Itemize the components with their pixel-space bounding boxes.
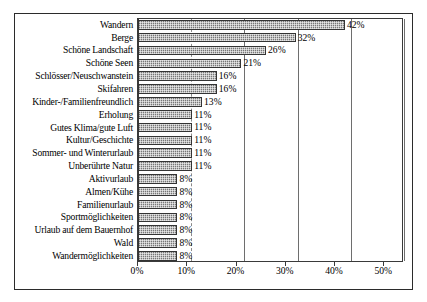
bar	[138, 174, 177, 184]
bar-value-label: 8%	[179, 174, 192, 184]
bar-value-label: 8%	[179, 200, 192, 210]
bar-row: Gutes Klima/gute Luft11%	[0, 121, 427, 135]
bar-value-label: 13%	[204, 97, 222, 107]
bar-row: Wandermöglichkeiten8%	[0, 249, 427, 263]
x-tick-mark	[137, 262, 138, 266]
bar-with-value: 26%	[138, 46, 286, 56]
bar-with-value: 11%	[138, 148, 211, 158]
bar-value-label: 16%	[219, 84, 237, 94]
bar-row: Wandern42%	[0, 18, 427, 32]
bar-with-value: 8%	[138, 174, 192, 184]
bar-rows: Wandern42%Berge32%Schöne Landschaft26%Sc…	[0, 18, 427, 262]
bar-row: Berge32%	[0, 31, 427, 45]
x-tick-mark	[285, 262, 286, 266]
bar	[138, 161, 192, 171]
category-label: Gutes Klima/gute Luft	[0, 123, 133, 133]
bar-with-value: 11%	[138, 123, 211, 133]
bar-with-value: 8%	[138, 200, 192, 210]
category-label: Aktivurlaub	[0, 174, 133, 184]
category-label: Kultur/Geschichte	[0, 135, 133, 145]
bar-row: Almen/Kühe8%	[0, 185, 427, 199]
category-label: Unberührte Natur	[0, 161, 133, 171]
bar-value-label: 8%	[179, 238, 192, 248]
bar-row: Kultur/Geschichte11%	[0, 134, 427, 148]
bar-with-value: 11%	[138, 110, 211, 120]
category-label: Urlaub auf dem Bauernhof	[0, 225, 133, 235]
x-tick-mark	[334, 262, 335, 266]
x-tick-mark	[186, 262, 187, 266]
bar	[138, 59, 241, 69]
bar-row: Kinder-/Familienfreundlich13%	[0, 95, 427, 109]
bar	[138, 148, 192, 158]
bar	[138, 46, 266, 56]
category-label: Schlösser/Neuschwanstein	[0, 71, 133, 81]
bar-row: Skifahren16%	[0, 82, 427, 96]
bar-with-value: 11%	[138, 161, 211, 171]
category-label: Wandermöglichkeiten	[0, 251, 133, 261]
bar-with-value: 21%	[138, 59, 261, 69]
bar-chart-figure: Wandern42%Berge32%Schöne Landschaft26%Sc…	[0, 0, 427, 302]
category-label: Familienurlaub	[0, 200, 133, 210]
category-label: Skifahren	[0, 84, 133, 94]
category-label: Almen/Kühe	[0, 187, 133, 197]
bar-row: Schöne Landschaft26%	[0, 44, 427, 58]
bar	[138, 187, 177, 197]
bar	[138, 97, 202, 107]
bar	[138, 200, 177, 210]
bar-row: Unberührte Natur11%	[0, 159, 427, 173]
x-tick-mark	[236, 262, 237, 266]
bar-value-label: 8%	[179, 225, 192, 235]
x-tick-label: 30%	[265, 265, 305, 276]
category-label: Berge	[0, 33, 133, 43]
bar	[138, 123, 192, 133]
bar-with-value: 16%	[138, 71, 236, 81]
bar-with-value: 8%	[138, 213, 192, 223]
bar-value-label: 8%	[179, 187, 192, 197]
category-label: Erholung	[0, 110, 133, 120]
bar-with-value: 8%	[138, 187, 192, 197]
bar	[138, 238, 177, 248]
bar-value-label: 11%	[194, 110, 211, 120]
bar-row: Urlaub auf dem Bauernhof8%	[0, 223, 427, 237]
bar	[138, 251, 177, 261]
bar-value-label: 11%	[194, 122, 211, 132]
bar-value-label: 16%	[219, 71, 237, 81]
x-tick-label: 50%	[363, 265, 403, 276]
category-label: Wandern	[0, 20, 133, 30]
bar	[138, 84, 217, 94]
x-tick-label: 10%	[166, 265, 206, 276]
bar	[138, 213, 177, 223]
category-label: Wald	[0, 238, 133, 248]
bar-row: Sommer- und Winterurlaub11%	[0, 146, 427, 160]
bar-row: Aktivurlaub8%	[0, 172, 427, 186]
category-label: Sommer- und Winterurlaub	[0, 148, 133, 158]
bar	[138, 136, 192, 146]
bar-with-value: 42%	[138, 20, 364, 30]
category-label: Schöne Seen	[0, 58, 133, 68]
bar-row: Familienurlaub8%	[0, 198, 427, 212]
bar-value-label: 8%	[179, 212, 192, 222]
bar-with-value: 8%	[138, 238, 192, 248]
category-label: Schöne Landschaft	[0, 45, 133, 55]
bar-row: Erholung11%	[0, 108, 427, 122]
bar-with-value: 32%	[138, 33, 315, 43]
x-tick-label: 20%	[216, 265, 256, 276]
bar	[138, 71, 217, 81]
bar-row: Wald8%	[0, 236, 427, 250]
bar	[138, 33, 296, 43]
x-axis-tick-labels: 0%10%20%30%40%50%	[0, 265, 427, 279]
bar-with-value: 13%	[138, 97, 222, 107]
bar-row: Schlösser/Neuschwanstein16%	[0, 69, 427, 83]
category-label: Sportmöglichkeiten	[0, 212, 133, 222]
bar-value-label: 11%	[194, 135, 211, 145]
bar-value-label: 42%	[347, 20, 365, 30]
x-tick-label: 40%	[314, 265, 354, 276]
x-tick-label: 0%	[117, 265, 157, 276]
bar	[138, 110, 192, 120]
bar	[138, 20, 345, 30]
bar-value-label: 8%	[179, 251, 192, 261]
bar-value-label: 21%	[243, 58, 261, 68]
bar-with-value: 16%	[138, 84, 236, 94]
bar-with-value: 11%	[138, 136, 211, 146]
bar-row: Schöne Seen21%	[0, 57, 427, 71]
